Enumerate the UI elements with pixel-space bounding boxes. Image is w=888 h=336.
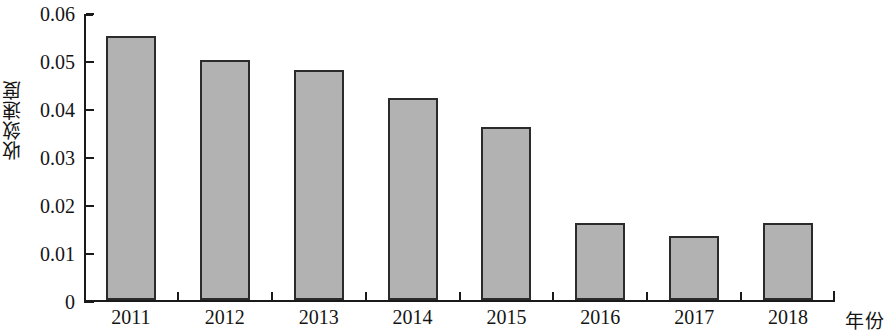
x-tick bbox=[271, 292, 273, 300]
bar bbox=[388, 98, 438, 300]
x-tick-label: 2013 bbox=[272, 306, 366, 329]
y-axis-title: 收敛速度 bbox=[2, 80, 28, 160]
x-axis-title: 年份 bbox=[845, 306, 885, 333]
x-tick-label: 2015 bbox=[460, 306, 554, 329]
y-tick bbox=[86, 13, 94, 15]
y-tick bbox=[86, 301, 94, 303]
y-tick bbox=[86, 157, 94, 159]
y-tick-label: 0.01 bbox=[40, 243, 75, 266]
x-tick-label: 2011 bbox=[84, 306, 178, 329]
plot-area: 00.010.020.030.040.050.06 bbox=[84, 14, 835, 302]
y-tick bbox=[86, 109, 94, 111]
y-tick-label: 0.04 bbox=[40, 99, 75, 122]
bar bbox=[481, 127, 531, 300]
bar bbox=[106, 36, 156, 300]
y-tick-label: 0.05 bbox=[40, 51, 75, 74]
x-tick-label: 2018 bbox=[741, 306, 835, 329]
x-tick bbox=[740, 292, 742, 300]
y-tick-label: 0 bbox=[65, 291, 75, 314]
y-tick bbox=[86, 61, 94, 63]
bar bbox=[575, 223, 625, 300]
bar-chart: 收敛速度 00.010.020.030.040.050.06 201120122… bbox=[0, 0, 888, 336]
y-tick bbox=[86, 253, 94, 255]
bar bbox=[669, 236, 719, 300]
y-tick bbox=[86, 205, 94, 207]
x-tick-label: 2012 bbox=[178, 306, 272, 329]
bar bbox=[200, 60, 250, 300]
x-tick bbox=[552, 292, 554, 300]
y-tick-label: 0.02 bbox=[40, 195, 75, 218]
y-tick-label: 0.03 bbox=[40, 147, 75, 170]
x-tick bbox=[459, 292, 461, 300]
bar bbox=[763, 223, 813, 300]
x-tick-label: 2014 bbox=[366, 306, 460, 329]
x-axis-right-cap bbox=[833, 291, 835, 302]
x-tick bbox=[646, 292, 648, 300]
x-tick bbox=[177, 292, 179, 300]
bar bbox=[294, 70, 344, 300]
x-tick bbox=[365, 292, 367, 300]
x-tick-label: 2016 bbox=[553, 306, 647, 329]
x-axis-line bbox=[84, 300, 835, 302]
x-tick-label: 2017 bbox=[647, 306, 741, 329]
y-tick-label: 0.06 bbox=[40, 3, 75, 26]
